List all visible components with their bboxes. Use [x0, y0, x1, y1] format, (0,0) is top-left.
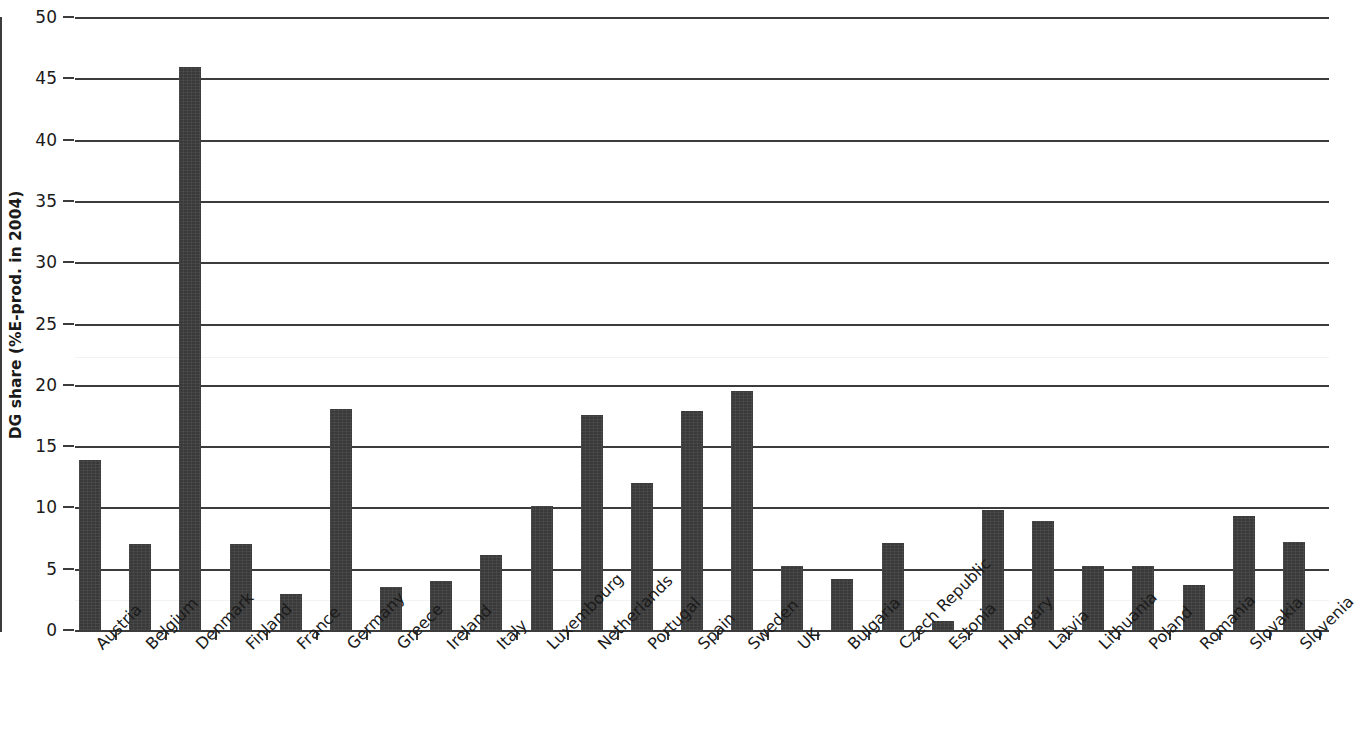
gridline	[75, 324, 1329, 326]
y-tick-label: 40	[35, 130, 57, 150]
gridline	[75, 78, 1329, 80]
gridline	[75, 140, 1329, 142]
y-tick-mark	[63, 77, 74, 79]
y-tick-mark	[63, 568, 74, 570]
plot-area	[75, 17, 1329, 630]
y-tick-mark	[63, 139, 74, 141]
y-tick-label: 30	[35, 252, 57, 272]
gridline	[75, 385, 1329, 387]
y-tick-mark	[63, 445, 74, 447]
x-axis-labels: AustriaBelgiumDenmarkFinlandFranceGerman…	[0, 640, 1329, 738]
bar	[330, 409, 352, 630]
y-tick-label: 35	[35, 191, 57, 211]
y-tick-mark	[63, 323, 74, 325]
y-tick-label: 20	[35, 375, 57, 395]
gridline	[75, 17, 1329, 19]
y-tick-mark	[63, 261, 74, 263]
y-tick-label: 5	[46, 559, 57, 579]
bar	[79, 460, 101, 630]
bar	[831, 579, 853, 630]
bar	[731, 391, 753, 630]
y-tick-mark	[63, 384, 74, 386]
y-tick-label: 50	[35, 7, 57, 27]
y-axis-ticks: 05101520253035404550	[0, 0, 75, 738]
bar	[179, 67, 201, 630]
bar	[531, 506, 553, 630]
y-tick-mark	[63, 16, 74, 18]
gridline	[75, 201, 1329, 203]
scan-artefact-line	[75, 357, 1329, 358]
y-tick-label: 15	[35, 436, 57, 456]
y-tick-mark	[63, 506, 74, 508]
y-tick-label: 45	[35, 68, 57, 88]
gridline	[75, 262, 1329, 264]
y-tick-label: 10	[35, 497, 57, 517]
y-tick-mark	[63, 200, 74, 202]
y-tick-label: 25	[35, 314, 57, 334]
